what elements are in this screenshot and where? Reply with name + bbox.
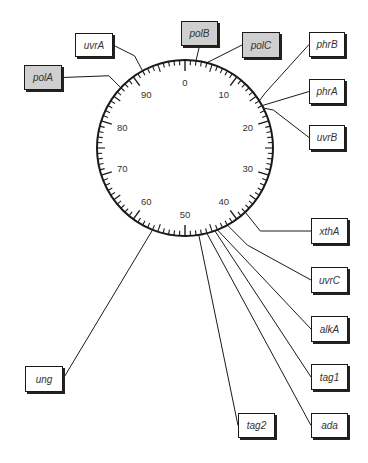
leader-line-phrA	[262, 92, 309, 106]
tick-mark	[210, 224, 212, 232]
scale-label: 0	[182, 77, 187, 88]
leader-line-tag2	[199, 235, 238, 426]
tick-mark	[129, 212, 132, 216]
tick-mark	[258, 106, 262, 108]
leader-line-uvrA	[113, 45, 143, 71]
tick-mark	[98, 158, 103, 159]
tick-mark	[246, 205, 250, 208]
tick-mark	[138, 74, 141, 78]
tick-mark	[125, 84, 128, 88]
gene-label: ada	[321, 420, 338, 431]
tick-mark	[258, 172, 268, 175]
tick-mark	[242, 209, 245, 213]
tick-mark	[133, 77, 139, 86]
leader-line-tag1	[215, 231, 311, 377]
tick-mark	[121, 88, 125, 91]
tick-mark	[225, 71, 227, 75]
tick-mark	[111, 101, 115, 104]
tick-mark	[260, 111, 265, 113]
gene-label: phrB	[316, 39, 337, 50]
tick-mark	[121, 205, 125, 208]
leader-line-uvrC	[227, 225, 311, 280]
tick-mark	[238, 80, 241, 84]
tick-mark	[125, 209, 128, 213]
scale-label: 40	[219, 196, 230, 207]
gene-box-xthA: xthA	[311, 218, 348, 244]
gene-box-tag2: tag2	[238, 413, 275, 438]
tick-mark	[249, 201, 253, 204]
gene-label: polC	[251, 40, 272, 51]
tick-mark	[108, 106, 112, 108]
tick-mark	[158, 224, 160, 232]
tick-mark	[250, 195, 256, 200]
tick-mark	[174, 230, 175, 235]
gene-box-phrB: phrB	[309, 32, 345, 57]
tick-mark	[114, 195, 120, 200]
gene-label: xthA	[319, 226, 339, 237]
leader-line-xthA	[245, 212, 311, 231]
tick-mark	[229, 74, 232, 78]
scale-label: 20	[242, 122, 253, 133]
tick-mark	[220, 68, 222, 73]
tick-mark	[98, 137, 103, 138]
tick-mark	[117, 201, 121, 204]
tick-mark	[225, 221, 227, 225]
scale-label: 70	[117, 163, 128, 174]
scale-label: 50	[180, 209, 191, 220]
tick-mark	[229, 218, 232, 222]
tick-mark	[101, 172, 111, 175]
gene-box-uvrB: uvrB	[309, 125, 345, 150]
tick-mark	[249, 92, 253, 95]
tick-mark	[260, 183, 265, 185]
tick-mark	[230, 210, 236, 219]
gene-label: tag2	[247, 420, 266, 431]
gene-label: tag1	[320, 372, 339, 383]
tick-mark	[148, 223, 150, 228]
tick-mark	[195, 230, 196, 235]
tick-mark	[158, 64, 160, 72]
leader-line-polB	[196, 46, 199, 61]
tick-mark	[210, 64, 212, 72]
tick-mark	[220, 223, 222, 228]
tick-mark	[108, 188, 112, 190]
scale-label: 80	[117, 122, 128, 133]
tick-mark	[258, 121, 268, 124]
tick-mark	[174, 61, 175, 66]
gene-box-tag1: tag1	[311, 364, 348, 390]
leader-line-polC	[207, 45, 242, 63]
leader-line-polA	[62, 76, 121, 88]
tick-mark	[133, 210, 139, 219]
scale-label: 30	[242, 163, 253, 174]
gene-box-ada: ada	[311, 413, 348, 438]
leader-line-ung	[63, 230, 153, 379]
scale-labels: 0102030405060708090	[117, 77, 253, 220]
gene-label: uvrB	[317, 132, 338, 143]
gene-box-alkA: alkA	[311, 316, 348, 342]
tick-mark	[258, 188, 262, 190]
tick-mark	[255, 192, 259, 195]
gene-label: ung	[36, 374, 53, 385]
gene-box-uvrA: uvrA	[75, 33, 113, 57]
tick-mark	[267, 158, 272, 159]
tick-mark	[138, 218, 141, 222]
tick-mark	[101, 121, 111, 124]
gene-box-polC: polC	[242, 32, 280, 58]
tick-mark	[238, 212, 241, 216]
tick-mark	[246, 88, 250, 91]
scale-label: 90	[141, 89, 152, 100]
tick-mark	[255, 101, 259, 104]
gene-label: polB	[189, 28, 209, 39]
gene-label: uvrA	[84, 40, 105, 51]
tick-mark	[143, 71, 145, 75]
tick-mark	[143, 221, 145, 225]
gene-label: alkA	[320, 324, 339, 335]
tick-mark	[111, 192, 115, 195]
tick-mark	[242, 84, 245, 88]
gene-box-uvrC: uvrC	[311, 267, 348, 293]
tick-mark	[148, 68, 150, 73]
tick-mark	[129, 80, 132, 84]
gene-label: polA	[33, 72, 53, 83]
tick-mark	[114, 96, 120, 101]
tick-mark	[267, 137, 272, 138]
tick-mark	[195, 61, 196, 66]
